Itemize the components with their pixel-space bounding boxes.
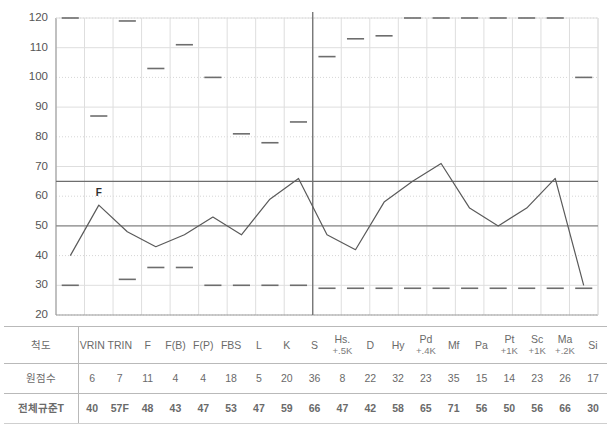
row-label-t-score: 전체규준T	[4, 394, 78, 424]
t-score-trin: 57F	[106, 394, 134, 424]
annotation-f-flag: F	[96, 187, 102, 198]
scale-name: Ma	[558, 333, 573, 345]
scale-name: Hy	[392, 339, 405, 351]
table-header-pt: Pt+1K	[495, 327, 523, 364]
row-label-scale: 척도	[4, 327, 78, 364]
table-header-ma: Ma+.2K	[551, 327, 579, 364]
t-score-fbs: 53	[217, 394, 245, 424]
y-axis-tick-90: 90	[12, 101, 48, 112]
table-header-k: K	[273, 327, 301, 364]
raw-score-vrin: 6	[78, 364, 106, 394]
table-header-fbs: FBS	[217, 327, 245, 364]
scale-name: D	[366, 339, 374, 351]
row-label-raw-score: 원점수	[4, 364, 78, 394]
raw-score-sc: 23	[523, 364, 551, 394]
table-row-scale-header: 척도VRINTRINFF(B)F(P)FBSLKSHs.+.5KDHyPd+.4…	[4, 327, 607, 364]
scale-name: Pa	[475, 339, 488, 351]
table-row-raw-score: 원점수67114418520368223223351514232617	[4, 364, 607, 394]
t-score-mf: 71	[440, 394, 468, 424]
scale-name: F(P)	[193, 339, 213, 351]
table-header-hy: Hy	[384, 327, 412, 364]
raw-score-fp: 4	[189, 364, 217, 394]
t-score-l: 47	[245, 394, 273, 424]
t-score-d: 42	[356, 394, 384, 424]
y-axis-tick-110: 110	[12, 42, 48, 53]
t-score-si: 30	[579, 394, 607, 424]
y-axis-tick-120: 120	[12, 12, 48, 23]
y-axis-tick-30: 30	[12, 279, 48, 290]
scale-name: Sc	[531, 333, 543, 345]
profile-chart: 2030405060708090100110120 F	[0, 0, 611, 322]
raw-score-pt: 14	[495, 364, 523, 394]
t-score-pd: 65	[412, 394, 440, 424]
table-header-l: L	[245, 327, 273, 364]
scale-name: Si	[588, 339, 597, 351]
score-table: 척도VRINTRINFF(B)F(P)FBSLKSHs.+.5KDHyPd+.4…	[4, 326, 607, 424]
raw-score-fbs: 18	[217, 364, 245, 394]
raw-score-l: 5	[245, 364, 273, 394]
t-score-hs: 47	[328, 394, 356, 424]
raw-score-hs: 8	[328, 364, 356, 394]
table-header-si: Si	[579, 327, 607, 364]
table-header-fp: F(P)	[189, 327, 217, 364]
table-row-t-score: 전체규준T4057F484347534759664742586571565056…	[4, 394, 607, 424]
y-axis-tick-50: 50	[12, 220, 48, 231]
scale-name: FBS	[221, 339, 241, 351]
scale-k-correction: +1K	[523, 345, 551, 356]
table-header-f: F	[134, 327, 162, 364]
raw-score-trin: 7	[106, 364, 134, 394]
raw-score-hy: 32	[384, 364, 412, 394]
table-header-sc: Sc+1K	[523, 327, 551, 364]
scale-name: TRIN	[108, 339, 133, 351]
y-axis-tick-20: 20	[12, 309, 48, 320]
t-score-pa: 56	[468, 394, 496, 424]
table-header-trin: TRIN	[106, 327, 134, 364]
t-score-s: 66	[301, 394, 329, 424]
t-score-vrin: 40	[78, 394, 106, 424]
t-score-fb: 43	[162, 394, 190, 424]
table-header-s: S	[301, 327, 329, 364]
raw-score-mf: 35	[440, 364, 468, 394]
table-header-vrin: VRIN	[78, 327, 106, 364]
scale-name: VRIN	[80, 339, 105, 351]
scale-name: Hs.	[335, 333, 351, 345]
scale-name: Pd	[419, 333, 432, 345]
raw-score-k: 20	[273, 364, 301, 394]
y-axis-tick-100: 100	[12, 71, 48, 82]
y-axis-tick-60: 60	[12, 190, 48, 201]
scale-name: K	[283, 339, 290, 351]
raw-score-fb: 4	[162, 364, 190, 394]
scale-name: L	[256, 339, 262, 351]
scale-name: F	[144, 339, 150, 351]
t-score-hy: 58	[384, 394, 412, 424]
scale-name: Pt	[504, 333, 514, 345]
scale-name: S	[311, 339, 318, 351]
mmpi-profile-page: 2030405060708090100110120 F 척도VRINTRINFF…	[0, 0, 611, 431]
table-header-pa: Pa	[468, 327, 496, 364]
scale-k-correction: +.4K	[412, 345, 440, 356]
t-score-ma: 66	[551, 394, 579, 424]
t-score-pt: 50	[495, 394, 523, 424]
scale-name: F(B)	[165, 339, 185, 351]
t-score-f: 48	[134, 394, 162, 424]
raw-score-ma: 26	[551, 364, 579, 394]
scale-k-correction: +.2K	[551, 345, 579, 356]
table-header-d: D	[356, 327, 384, 364]
table-header-mf: Mf	[440, 327, 468, 364]
scale-k-correction: +1K	[495, 345, 523, 356]
table-header-pd: Pd+.4K	[412, 327, 440, 364]
raw-score-s: 36	[301, 364, 329, 394]
t-score-k: 59	[273, 394, 301, 424]
raw-score-f: 11	[134, 364, 162, 394]
scale-name: Mf	[448, 339, 460, 351]
y-axis-tick-80: 80	[12, 131, 48, 142]
raw-score-pd: 23	[412, 364, 440, 394]
table-header-hs: Hs.+.5K	[328, 327, 356, 364]
profile-chart-svg	[0, 0, 611, 322]
raw-score-si: 17	[579, 364, 607, 394]
scale-k-correction: +.5K	[328, 345, 356, 356]
t-score-sc: 56	[523, 394, 551, 424]
raw-score-pa: 15	[468, 364, 496, 394]
raw-score-d: 22	[356, 364, 384, 394]
y-axis-tick-40: 40	[12, 250, 48, 261]
